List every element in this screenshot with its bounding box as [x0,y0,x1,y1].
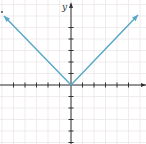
axes [0,2,146,144]
grid-lines [0,0,146,144]
corner-dot [1,11,3,13]
x-axis-arrow-icon [141,83,146,87]
abs-value-graph: y [0,0,146,144]
y-axis-label: y [61,2,68,12]
y-axis-arrow-icon [69,2,73,8]
